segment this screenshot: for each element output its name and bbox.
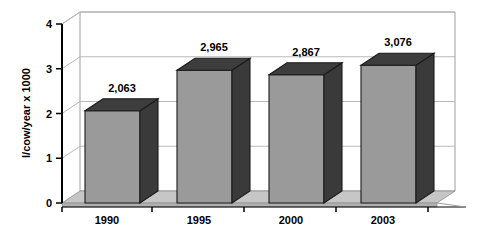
data-label-1990: 2,063 — [108, 82, 136, 94]
y-tick-label-2: 2 — [46, 108, 52, 120]
bar-front-1990[interactable] — [85, 111, 140, 203]
y-tick-label-4: 4 — [46, 18, 53, 30]
y-axis-title: l/cow/year x 1000 — [20, 68, 32, 158]
x-category-label-1990: 1990 — [95, 214, 119, 226]
data-label-1995: 2,965 — [200, 41, 228, 53]
bar-front-1995[interactable] — [177, 70, 232, 203]
bar-side-1990[interactable] — [140, 99, 158, 203]
bar-group-1995[interactable] — [177, 58, 250, 203]
x-category-label-2000: 2000 — [279, 214, 303, 226]
bar-group-1990[interactable] — [85, 99, 158, 203]
bar-side-2003[interactable] — [416, 53, 434, 203]
bar-side-2000[interactable] — [324, 63, 342, 203]
bar-side-1995[interactable] — [232, 58, 250, 203]
bar-front-2000[interactable] — [269, 75, 324, 203]
y-tick-label-1: 1 — [46, 152, 52, 164]
bar-chart-3d: 4 3 2 1 0 l/cow/year x 1000 1990 1995 20… — [0, 0, 477, 237]
bar-group-2003[interactable] — [361, 53, 434, 203]
x-category-label-1995: 1995 — [187, 214, 211, 226]
data-label-2000: 2,867 — [292, 46, 320, 58]
y-tick-label-3: 3 — [46, 63, 52, 75]
bar-group-2000[interactable] — [269, 63, 342, 203]
y-tick-label-0: 0 — [46, 197, 52, 209]
chart-container: 4 3 2 1 0 l/cow/year x 1000 1990 1995 20… — [0, 0, 477, 237]
bar-front-2003[interactable] — [361, 65, 416, 203]
data-label-2003: 3,076 — [384, 36, 412, 48]
x-category-label-2003: 2003 — [371, 214, 395, 226]
